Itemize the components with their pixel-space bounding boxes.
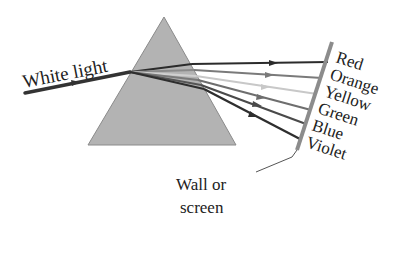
- wall-leader-line: [256, 150, 297, 172]
- prism: [88, 17, 236, 145]
- prism-dispersion-diagram: White light Red Orange Yellow Green Blue…: [0, 0, 415, 255]
- wall-label-line2: screen: [180, 198, 224, 217]
- ray-orange: [194, 70, 322, 78]
- label-violet: Violet: [304, 133, 350, 164]
- spectrum-labels: Red Orange Yellow Green Blue Violet: [304, 48, 381, 164]
- ray-red: [192, 60, 328, 66]
- wall-label-line1: Wall or: [176, 175, 226, 194]
